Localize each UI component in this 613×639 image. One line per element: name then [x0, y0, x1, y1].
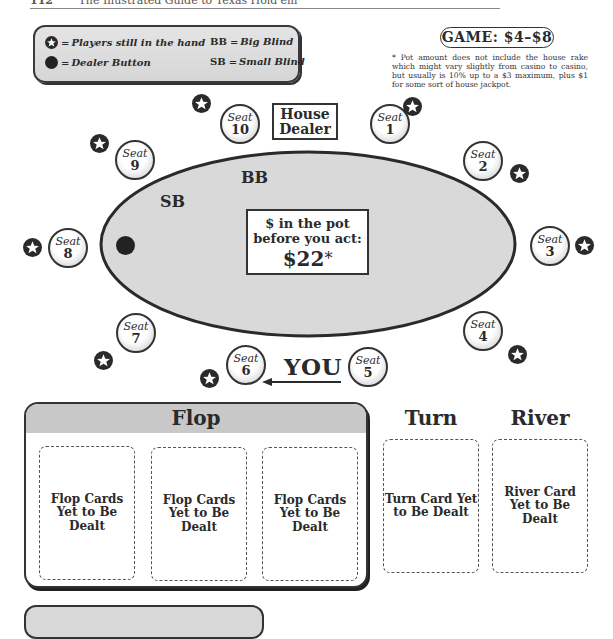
- seat-3[interactable]: Seat3: [530, 226, 570, 266]
- star-icon: [575, 236, 594, 255]
- flop-card-1: Flop Cards Yet to Be Dealt: [39, 446, 135, 580]
- star-icon: [200, 369, 219, 388]
- small-blind-label: SB: [160, 192, 185, 211]
- pot-line-1: $ in the pot: [248, 216, 367, 231]
- seat-number: 2: [478, 161, 487, 173]
- star-icon: [94, 351, 113, 370]
- flop-card-2: Flop Cards Yet to Be Dealt: [151, 447, 247, 581]
- seat-number: 7: [131, 333, 140, 345]
- seat-number: 4: [478, 331, 487, 343]
- seat-number: 1: [385, 124, 394, 136]
- you-label: YOU: [284, 353, 342, 380]
- seat-10[interactable]: Seat10: [220, 104, 260, 144]
- star-icon: [192, 94, 211, 113]
- seat-number: 8: [63, 248, 72, 260]
- seat-5[interactable]: Seat5: [348, 347, 388, 387]
- seat-9[interactable]: Seat9: [115, 140, 155, 180]
- star-icon: [403, 97, 422, 116]
- seat-2[interactable]: Seat2: [463, 141, 503, 181]
- seat-number: 3: [545, 246, 554, 258]
- house-dealer-line: House: [274, 107, 336, 122]
- flop-card-3: Flop Cards Yet to Be Dealt: [262, 447, 358, 581]
- flop-title: Flop: [26, 404, 366, 433]
- pot-amount: $22: [283, 247, 325, 271]
- seat-number: 6: [241, 365, 250, 377]
- star-icon: [90, 134, 109, 153]
- turn-title: Turn: [383, 406, 479, 430]
- pot-line-2: before you act:: [248, 231, 367, 246]
- big-blind-label: BB: [241, 168, 268, 187]
- star-icon: [23, 238, 42, 257]
- pot-amount-line: $22*: [248, 248, 367, 270]
- river-title: River: [492, 406, 588, 430]
- house-dealer-line: Dealer: [274, 122, 336, 137]
- flop-panel: Flop Flop Cards Yet to Be Dealt Flop Car…: [24, 402, 368, 588]
- pot-asterisk: *: [324, 249, 332, 268]
- seat-number: 5: [363, 367, 372, 379]
- turn-card: Turn Card Yet to Be Dealt: [383, 439, 479, 573]
- seat-number: 10: [231, 124, 249, 136]
- seat-6[interactable]: Seat6: [226, 345, 266, 385]
- next-panel-partial: [24, 605, 264, 639]
- star-icon: [510, 164, 529, 183]
- house-dealer-box: House Dealer: [272, 103, 338, 140]
- pot-box: $ in the pot before you act: $22*: [246, 209, 369, 275]
- star-icon: [508, 345, 527, 364]
- dealer-button: [116, 236, 135, 255]
- seat-7[interactable]: Seat7: [116, 313, 156, 353]
- seat-4[interactable]: Seat4: [463, 311, 503, 351]
- seat-8[interactable]: Seat8: [48, 228, 88, 268]
- seat-number: 9: [130, 160, 139, 172]
- river-card: River Card Yet to Be Dealt: [492, 439, 588, 573]
